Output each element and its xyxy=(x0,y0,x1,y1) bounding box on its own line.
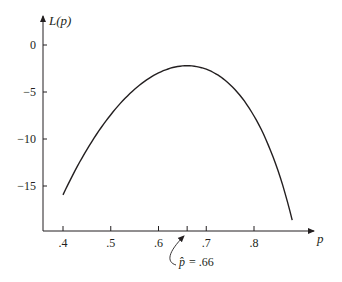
mle-label: p̂= .66 xyxy=(178,255,214,269)
x-tick-label: .6 xyxy=(154,236,163,250)
x-axis: .4.5.6.7.8 xyxy=(43,226,314,250)
y-tick-label: −10 xyxy=(17,132,36,146)
x-tick-label: .5 xyxy=(106,236,115,250)
y-axis: 0−5−10−15 xyxy=(17,16,47,231)
x-tick-label: .4 xyxy=(59,236,68,250)
likelihood-chart: 0−5−10−15 .4.5.6.7.8 p̂= .66 L(p) p xyxy=(0,0,342,282)
likelihood-curve xyxy=(63,66,292,220)
y-tick-label: −5 xyxy=(23,85,36,99)
y-axis-title: L(p) xyxy=(48,13,71,28)
y-tick-label: −15 xyxy=(17,179,36,193)
x-axis-title: p xyxy=(316,231,324,246)
y-tick-label: 0 xyxy=(30,38,36,52)
x-tick-label: .8 xyxy=(250,236,259,250)
x-tick-label: .7 xyxy=(202,236,211,250)
